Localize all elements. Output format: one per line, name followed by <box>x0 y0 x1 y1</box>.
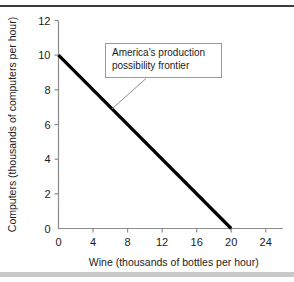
x-tick-label: 16 <box>191 236 203 248</box>
y-tick-label: 4 <box>44 153 50 165</box>
y-tick-label: 0 <box>44 223 50 235</box>
annotation-leader-line <box>112 79 146 109</box>
x-tick-label: 8 <box>125 236 131 248</box>
ppf-line <box>59 55 232 228</box>
ppf-line-series <box>59 55 232 228</box>
annotation-callout-text: America's production possibility frontie… <box>112 47 216 72</box>
bottom-divider-bar <box>0 272 294 277</box>
x-tick-label: 0 <box>55 236 61 248</box>
x-tick-label: 24 <box>260 236 272 248</box>
x-axis-title: Wine (thousands of bottles per hour) <box>89 256 259 268</box>
y-tick-label: 6 <box>44 119 50 131</box>
y-tick-label: 2 <box>44 188 50 200</box>
y-axis-title: Computers (thousands of computers per ho… <box>6 17 18 232</box>
y-tick-label: 8 <box>44 84 50 96</box>
y-tick-label: 10 <box>38 49 50 61</box>
y-tick-label: 12 <box>38 15 50 27</box>
x-tick-label: 20 <box>225 236 237 248</box>
annotation-callout-box: America's production possibility frontie… <box>105 43 222 78</box>
x-tick-label: 4 <box>90 236 96 248</box>
x-tick-label: 12 <box>156 236 168 248</box>
ppf-chart-figure: 04812162024 024681012 Wine (thousands of… <box>0 0 294 282</box>
y-axis-ticks: 024681012 <box>38 15 58 235</box>
x-axis-ticks: 04812162024 <box>55 229 271 248</box>
